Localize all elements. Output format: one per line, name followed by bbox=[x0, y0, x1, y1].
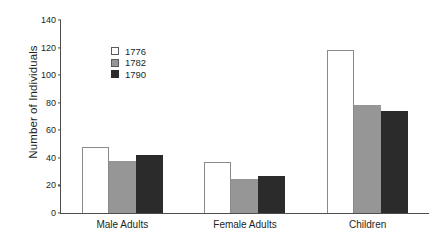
x-axis-line bbox=[61, 213, 429, 214]
legend-label: 1776 bbox=[125, 46, 146, 57]
bar-1776-male-adults[interactable] bbox=[82, 147, 109, 213]
legend-label: 1782 bbox=[125, 57, 146, 68]
bar-1776-children[interactable] bbox=[327, 50, 354, 213]
x-axis-category-label: Children bbox=[306, 219, 429, 230]
bar-chart: Number of Individuals 020406080100120140… bbox=[0, 0, 439, 247]
legend-swatch-icon bbox=[111, 70, 119, 78]
bar-1790-female-adults[interactable] bbox=[258, 176, 285, 213]
bar-1782-male-adults[interactable] bbox=[109, 161, 136, 213]
legend-swatch-icon bbox=[111, 47, 119, 55]
chart-legend: 177617821790 bbox=[111, 46, 146, 81]
legend-label: 1790 bbox=[125, 69, 146, 80]
bar-cluster bbox=[327, 20, 408, 213]
bar-1782-children[interactable] bbox=[354, 105, 381, 213]
bar-group: Female Adults bbox=[184, 20, 307, 213]
x-axis-category-label: Female Adults bbox=[184, 219, 307, 230]
legend-item[interactable]: 1776 bbox=[111, 46, 146, 57]
bar-1790-male-adults[interactable] bbox=[136, 155, 163, 213]
bar-cluster bbox=[204, 20, 285, 213]
legend-item[interactable]: 1790 bbox=[111, 69, 146, 80]
bar-1790-children[interactable] bbox=[381, 111, 408, 213]
legend-item[interactable]: 1782 bbox=[111, 58, 146, 69]
bar-group: Children bbox=[306, 20, 429, 213]
bar-1776-female-adults[interactable] bbox=[204, 162, 231, 213]
x-axis-category-label: Male Adults bbox=[61, 219, 184, 230]
y-axis-title: Number of Individuals bbox=[27, 22, 39, 182]
legend-swatch-icon bbox=[111, 59, 119, 67]
bar-1782-female-adults[interactable] bbox=[231, 179, 258, 213]
